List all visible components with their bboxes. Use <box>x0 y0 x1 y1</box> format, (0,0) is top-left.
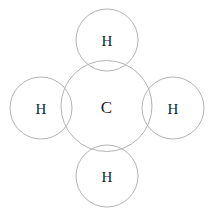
hydrogen-right-label: H <box>168 101 179 117</box>
hydrogen-bottom-label: H <box>102 169 113 185</box>
molecule-diagram: H H H H C <box>0 0 214 212</box>
hydrogen-top-label: H <box>102 33 113 49</box>
molecule-canvas: H H H H C <box>0 0 214 212</box>
hydrogen-left-label: H <box>36 101 47 117</box>
carbon-center-label: C <box>101 98 112 117</box>
